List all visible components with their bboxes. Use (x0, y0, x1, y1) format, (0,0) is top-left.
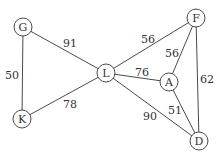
edge-f-d (196, 18, 199, 141)
edge-weight-a-f: 56 (165, 47, 179, 60)
edge-k-l (22, 73, 106, 119)
edge-weight-l-d: 90 (143, 110, 157, 123)
node-label: G (19, 21, 28, 34)
edge-l-f (106, 18, 196, 73)
node-label: F (192, 12, 200, 25)
node-f: F (187, 9, 205, 27)
node-label: A (164, 76, 174, 89)
edge-weight-f-d: 62 (200, 73, 214, 86)
edge-g-k (22, 27, 23, 119)
nodes-layer: GLFAKD (13, 9, 208, 150)
edge-weight-l-f: 56 (141, 33, 155, 46)
edge-weight-k-l: 78 (63, 98, 77, 111)
edge-l-d (106, 73, 199, 141)
node-label: D (195, 135, 204, 148)
node-label: K (18, 113, 27, 126)
edge-weight-g-l: 91 (63, 37, 77, 50)
node-d: D (190, 132, 208, 150)
node-g: G (14, 18, 32, 36)
edge-weight-l-a: 76 (135, 66, 149, 79)
node-k: K (13, 110, 31, 128)
node-l: L (97, 64, 115, 82)
node-a: A (160, 73, 178, 91)
edge-weight-g-k: 50 (5, 69, 19, 82)
edge-g-l (23, 27, 106, 73)
graph-diagram: 915078567690565162 GLFAKD (0, 0, 220, 157)
node-label: L (102, 67, 110, 80)
edge-weight-a-d: 51 (168, 104, 182, 117)
